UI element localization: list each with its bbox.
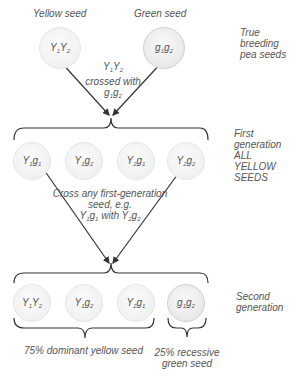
brace-second-generation: [14, 263, 208, 283]
seed-f2-4-recessive: g1g2: [167, 284, 205, 322]
seed-f2-2: Y1g2: [65, 284, 103, 322]
seed-yellow-parent: Y1Y2: [39, 27, 81, 69]
cross1-text: Y1Y2 crossed with g1g2: [78, 61, 148, 102]
green-seed-label: Green seed: [134, 8, 186, 19]
brace-first-generation: [14, 118, 208, 140]
seed-f1-3: Y2g1: [117, 142, 155, 180]
seed-green-parent: g1g2: [143, 27, 185, 69]
yellow-seed-label: Yellow seed: [33, 8, 86, 19]
cross2-text: Cross any first-generation seed, e.g. Y1…: [50, 188, 170, 225]
second-generation-label: Second generation: [236, 291, 283, 313]
dominant-label: 75% dominant yellow seed: [24, 345, 143, 356]
seed-f2-3: Y2g1: [117, 284, 155, 322]
first-generation-label: First generation ALL YELLOW SEEDS: [234, 128, 281, 183]
seed-f1-4: Y2g2: [167, 142, 205, 180]
true-breeding-label: True breeding pea seeds: [240, 27, 286, 60]
seed-f1-1: Y1g1: [13, 142, 51, 180]
recessive-label: 25% recessive green seed: [150, 347, 224, 369]
seed-f2-1: Y1Y2: [13, 284, 51, 322]
seed-f1-2: Y1g2: [65, 142, 103, 180]
